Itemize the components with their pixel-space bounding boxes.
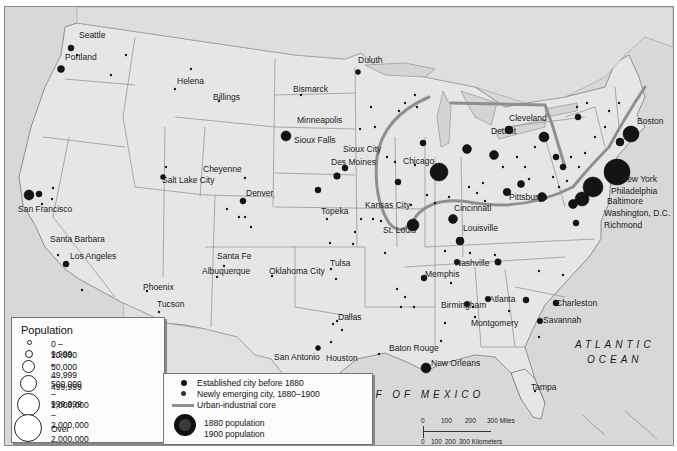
city-label: Dallas [338, 313, 362, 322]
city-label: San Francisco [18, 205, 72, 214]
population-circle-icon [27, 340, 32, 345]
city-label: Des Moines [331, 158, 376, 167]
city-label: Nashville [455, 259, 490, 268]
city-label: Louisville [463, 224, 498, 233]
city-label: Bismarck [293, 85, 328, 94]
city-label: San Antonio [274, 353, 320, 362]
city-label: Cleveland [509, 114, 547, 123]
symbols-legend: Established city before 1880 Newly emerg… [163, 373, 373, 445]
city-label: Tucson [157, 300, 185, 309]
scale-bar: 0 100 200 300 Miles 0 100 200 300 Kilome… [413, 417, 523, 446]
established-city-label: Established city before 1880 [197, 378, 304, 388]
city-label: Tulsa [330, 259, 350, 268]
city-label: Denver [246, 189, 273, 198]
atlantic-label-line2: OCEAN [575, 354, 655, 365]
emerging-city-label: Newly emerging city, 1880–1900 [197, 389, 320, 399]
city-label: New Orleans [431, 359, 480, 368]
atlantic-label-line1: ATLANTIC [575, 339, 655, 350]
city-label: Pittsburgh [509, 193, 547, 202]
city-label: Sioux City [343, 145, 381, 154]
population-circle-icon [20, 375, 37, 392]
population-circle-icon [17, 393, 40, 416]
city-label: Atlanta [489, 295, 515, 304]
city-label: Oklahoma City [269, 267, 325, 276]
population-circle-icon [22, 360, 35, 373]
city-label: Billings [213, 93, 240, 102]
city-label: Minneapolis [297, 116, 342, 125]
city-label: Chicago [403, 157, 434, 166]
city-label: Boston [637, 117, 663, 126]
city-label: Phoenix [143, 283, 174, 292]
city-label: Santa Fe [217, 252, 252, 261]
city-label: Sioux Falls [294, 136, 336, 145]
city-label: Los Angeles [70, 252, 116, 261]
city-label: Helena [177, 77, 204, 86]
scale-line [423, 431, 491, 432]
city-label: New York [621, 175, 657, 184]
city-label: Memphis [425, 270, 459, 279]
established-city-icon [181, 380, 187, 386]
pop-1880-label: 1880 population [204, 418, 265, 428]
atlantic-ocean-label: ATLANTIC OCEAN [575, 339, 655, 365]
population-legend-title: Population [21, 324, 73, 336]
city-label: Portland [65, 53, 97, 62]
city-label: Baltimore [607, 197, 643, 206]
city-label: Cincinnati [454, 204, 491, 213]
city-label: Salt Lake City [162, 176, 214, 185]
population-legend: Population 0 – 9,999 10,000 – 49,999 50,… [11, 317, 165, 443]
pop-1900-label: 1900 population [204, 429, 265, 439]
emerging-city-icon [181, 391, 186, 396]
map-frame: SeattlePortlandHelenaBillingsBismarckDul… [4, 6, 674, 446]
population-circle-icon [14, 414, 42, 442]
city-label: Philadelphia [611, 187, 657, 196]
city-label: Washington, D.C. [604, 209, 670, 218]
urban-core-label: Urban-industrial core [197, 400, 276, 410]
city-label: Savannah [543, 316, 581, 325]
city-label: Duluth [358, 56, 383, 65]
city-label: Seattle [79, 31, 105, 40]
city-label: Houston [326, 354, 358, 363]
city-label: Tampa [531, 383, 557, 392]
city-label: Birmingham [441, 301, 486, 310]
city-label: Detroit [491, 127, 516, 136]
city-label: Charleston [556, 299, 597, 308]
city-label: Kansas City [365, 201, 410, 210]
city-label: Topeka [321, 207, 348, 216]
city-label: Cheyenne [203, 165, 242, 174]
city-label: Richmond [604, 221, 642, 230]
city-label: Montgomery [471, 319, 518, 328]
city-label: Albuquerque [202, 267, 250, 276]
city-label: Santa Barbara [50, 235, 105, 244]
city-label: Baton Rouge [389, 344, 439, 353]
city-label: St. Louis [383, 226, 416, 235]
urban-core-line-icon [172, 404, 194, 407]
population-comparison-inner-icon [179, 419, 191, 431]
population-circle-icon [25, 350, 33, 358]
